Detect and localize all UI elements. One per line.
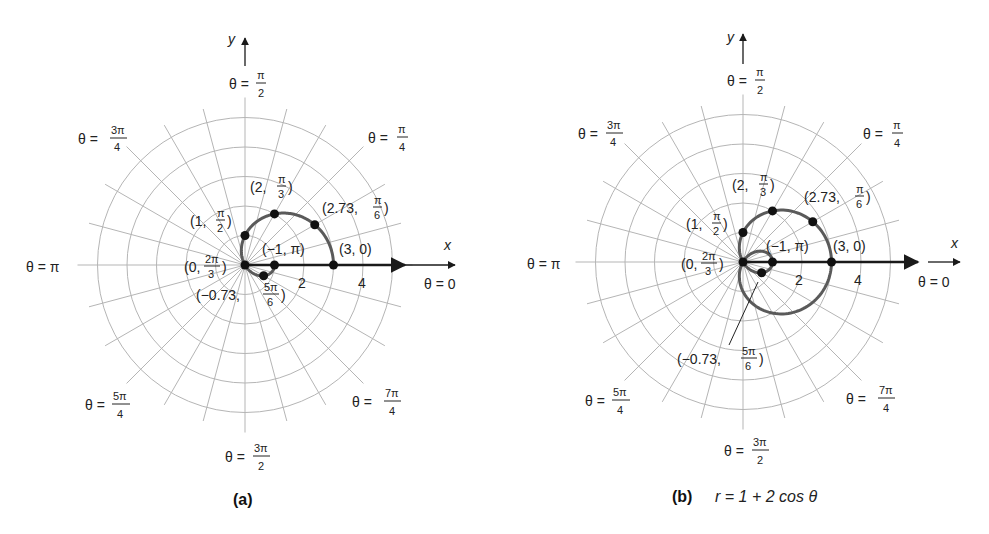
- svg-text:6: 6: [745, 360, 751, 372]
- angle-label-7pi-4-a: θ = 7π 4: [352, 387, 401, 417]
- svg-text:5π: 5π: [264, 281, 278, 293]
- angle-label-7pi-4-b: θ = 7π 4: [846, 384, 895, 414]
- svg-text:θ =: θ =: [863, 126, 883, 142]
- data-point: [259, 271, 268, 280]
- x-axis-label-a: x: [443, 237, 452, 253]
- svg-text:π: π: [278, 173, 286, 185]
- svg-text:4: 4: [399, 141, 405, 153]
- angle-label-5pi-4-a: θ = 5π 4: [85, 390, 130, 420]
- svg-text:2: 2: [713, 225, 719, 237]
- data-point: [241, 261, 250, 270]
- point-label-neg1-pi-a: (−1, π): [262, 241, 305, 257]
- angle-label-pi-4-a: θ = π 4: [368, 123, 408, 153]
- svg-text:3: 3: [208, 268, 214, 280]
- svg-text:4: 4: [389, 405, 395, 417]
- data-point: [768, 206, 777, 215]
- angle-label-pi-2-a: θ = π 2: [229, 69, 266, 99]
- svg-text:(0,: (0,: [184, 259, 200, 275]
- svg-text:π: π: [374, 194, 382, 206]
- svg-text:5π: 5π: [613, 386, 627, 398]
- point-label-1-pi2-a: (1, π 2 ): [190, 207, 232, 234]
- svg-text:6: 6: [374, 209, 380, 221]
- angle-label-3pi-2-b: θ = 3π 2: [724, 436, 769, 466]
- svg-text:6: 6: [856, 198, 862, 210]
- svg-text:θ =: θ =: [229, 76, 249, 92]
- point-label-neg1-pi-b: (−1, π): [766, 238, 809, 254]
- point-label-2.73-pi6-b: (2.73, π 6 ): [804, 183, 871, 210]
- svg-text:7π: 7π: [385, 387, 399, 399]
- svg-text:(0,: (0,: [681, 256, 697, 272]
- svg-text:): ): [384, 200, 389, 216]
- svg-text:2: 2: [217, 222, 223, 234]
- svg-text:(1,: (1,: [190, 213, 206, 229]
- angle-label-pi-2-b: θ = π 2: [727, 66, 765, 96]
- svg-text:4: 4: [894, 137, 900, 149]
- svg-text:(−0.73,: (−0.73,: [196, 287, 240, 303]
- svg-text:): ): [723, 216, 728, 232]
- svg-text:π: π: [856, 183, 864, 195]
- svg-text:π: π: [257, 69, 265, 81]
- svg-text:5π: 5π: [742, 345, 756, 357]
- y-axis-label-b: y: [726, 29, 735, 45]
- svg-text:θ =: θ =: [352, 394, 372, 410]
- data-point: [270, 209, 279, 218]
- tick-label-2-b: 2: [795, 272, 803, 288]
- svg-text:2: 2: [258, 460, 264, 472]
- data-point: [808, 217, 817, 226]
- svg-text:): ): [770, 177, 775, 193]
- panel-b: x y 2 4 θ = 0 θ = π θ = π 2 θ = 3π 4 θ =…: [527, 29, 960, 505]
- data-point: [329, 261, 338, 270]
- svg-text:2π: 2π: [205, 253, 219, 265]
- svg-text:π: π: [713, 210, 721, 222]
- svg-text:): ): [866, 189, 871, 205]
- data-point: [768, 258, 777, 267]
- svg-text:3: 3: [760, 186, 766, 198]
- svg-text:(2.73,: (2.73,: [322, 200, 358, 216]
- svg-text:3π: 3π: [111, 124, 125, 136]
- svg-text:): ): [759, 351, 764, 367]
- svg-text:θ =: θ =: [585, 393, 605, 409]
- caption-b: (b): [672, 488, 692, 505]
- svg-text:7π: 7π: [879, 384, 893, 396]
- point-label-3-0-a: (3, 0): [339, 241, 372, 257]
- angle-label-pi-b: θ = π: [527, 256, 561, 272]
- svg-text:3π: 3π: [254, 442, 268, 454]
- caption-a: (a): [233, 491, 253, 508]
- svg-text:3: 3: [705, 265, 711, 277]
- svg-text:θ =: θ =: [368, 130, 388, 146]
- svg-text:(2,: (2,: [250, 179, 266, 195]
- data-point: [270, 261, 279, 270]
- svg-text:θ =: θ =: [578, 126, 598, 142]
- equation-caption-b: r = 1 + 2 cos θ: [715, 488, 817, 505]
- data-point: [827, 258, 836, 267]
- svg-text:θ =: θ =: [727, 73, 747, 89]
- svg-text:θ =: θ =: [78, 131, 98, 147]
- svg-text:θ =: θ =: [724, 443, 744, 459]
- angle-label-3pi-4-b: θ = 3π 4: [578, 119, 623, 148]
- svg-text:3π: 3π: [753, 436, 767, 448]
- svg-text:π: π: [893, 119, 901, 131]
- svg-text:4: 4: [883, 402, 889, 414]
- svg-text:(2,: (2,: [732, 177, 748, 193]
- angle-label-5pi-4-b: θ = 5π 4: [585, 386, 630, 416]
- angle-label-pi-a: θ = π: [26, 259, 60, 275]
- panel-a: x y 2 4 θ = 0 θ = π θ = π 2 θ = 3π 4 θ =…: [26, 31, 456, 508]
- svg-text:(2.73,: (2.73,: [804, 189, 840, 205]
- angle-label-3pi-2-a: θ = 3π 2: [225, 442, 270, 472]
- angle-label-0-b: θ = 0: [918, 274, 950, 290]
- svg-text:2: 2: [258, 87, 264, 99]
- svg-text:): ): [222, 259, 227, 275]
- point-label-2-pi3-b: (2, π 3 ): [732, 171, 775, 198]
- data-point: [739, 228, 748, 237]
- polar-figure: x y 2 4 θ = 0 θ = π θ = π 2 θ = 3π 4 θ =…: [0, 0, 989, 534]
- data-point: [241, 231, 250, 240]
- svg-text:2π: 2π: [702, 250, 716, 262]
- angle-label-3pi-4-a: θ = 3π 4: [78, 124, 127, 153]
- svg-text:θ =: θ =: [225, 449, 245, 465]
- svg-text:5π: 5π: [113, 390, 127, 402]
- point-label-3-0-b: (3, 0): [833, 238, 866, 254]
- svg-text:4: 4: [610, 136, 616, 148]
- svg-text:π: π: [398, 123, 406, 135]
- svg-text:2: 2: [757, 84, 763, 96]
- x-axis-label-b: x: [950, 235, 959, 251]
